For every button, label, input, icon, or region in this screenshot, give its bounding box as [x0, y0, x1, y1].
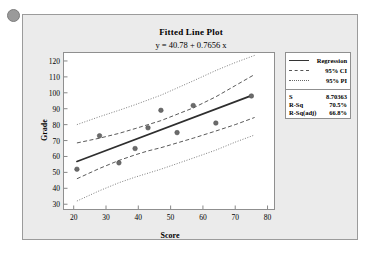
stats-key: R-Sq(adj) — [289, 109, 316, 116]
y-tick-label: 110 — [49, 72, 60, 81]
y-tick-label: 30 — [53, 200, 61, 209]
legend-label: 95% PI — [312, 77, 347, 84]
stats-value: 8.70363 — [326, 93, 347, 100]
stats-row: R-Sq(adj) 66.8% — [289, 108, 347, 116]
y-tick-label: 60 — [53, 152, 61, 161]
stats-key: S — [289, 93, 293, 100]
legend-label: Regression — [312, 57, 347, 64]
page-title: Fitted Line Plot — [23, 27, 359, 38]
statistics-box: S 8.70363 R-Sq 70.5% R-Sq(adj) 66.8% — [285, 89, 351, 119]
x-tick-label: 80 — [264, 213, 272, 222]
y-axis-title: Grade — [40, 119, 49, 141]
x-tick-label: 40 — [135, 213, 143, 222]
legend-line-dashed-icon — [289, 67, 309, 74]
legend-item-ci: 95% CI — [289, 66, 347, 75]
y-tick-label: 90 — [53, 104, 61, 113]
x-tick-label: 70 — [231, 213, 239, 222]
chart-title-block: Fitted Line Plot y = 40.78 + 0.7656 x — [23, 27, 359, 51]
y-tick-label: 40 — [53, 184, 61, 193]
y-tick-label: 100 — [49, 88, 60, 97]
legend-label: 95% CI — [312, 67, 347, 74]
legend-line-dotted-icon — [289, 77, 309, 84]
y-tick-label: 50 — [53, 168, 61, 177]
stats-key: R-Sq — [289, 101, 303, 108]
plot-svg — [64, 53, 274, 209]
x-tick-label: 50 — [167, 213, 175, 222]
y-tick-label: 70 — [53, 136, 61, 145]
plot-area: Grade Score 30405060708090100110120 2030… — [63, 52, 275, 210]
x-tick-label: 30 — [102, 213, 110, 222]
y-tick-label: 80 — [53, 120, 61, 129]
legend-line-solid-icon — [289, 57, 309, 64]
x-tick-label: 60 — [199, 213, 207, 222]
chart-legend: Regression 95% CI 95% PI — [285, 52, 351, 90]
x-tick-label: 20 — [70, 213, 78, 222]
screenshot-root: Fitted Line Plot y = 40.78 + 0.7656 x Gr… — [0, 0, 372, 254]
legend-item-pi: 95% PI — [289, 76, 347, 85]
bullet-dot-icon — [7, 9, 20, 22]
stats-value: 66.8% — [329, 109, 347, 116]
legend-item-regression: Regression — [289, 56, 347, 65]
chart-card: Fitted Line Plot y = 40.78 + 0.7656 x Gr… — [22, 14, 358, 240]
x-axis-title: Score — [64, 231, 276, 240]
stats-row: S 8.70363 — [289, 92, 347, 100]
stats-value: 70.5% — [329, 101, 347, 108]
stats-row: R-Sq 70.5% — [289, 100, 347, 108]
y-tick-label: 120 — [49, 56, 60, 65]
regression-equation: y = 40.78 + 0.7656 x — [23, 39, 359, 51]
